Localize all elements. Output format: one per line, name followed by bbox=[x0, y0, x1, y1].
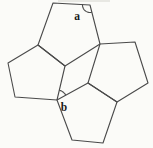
angle-b-label: b bbox=[61, 101, 67, 113]
scan-smudge bbox=[58, 0, 110, 2]
pentagon-angle-diagram: ab bbox=[0, 0, 153, 148]
figure-background bbox=[0, 0, 153, 148]
diagram-canvas: ab bbox=[0, 0, 153, 148]
angle-a-label: a bbox=[74, 10, 80, 22]
